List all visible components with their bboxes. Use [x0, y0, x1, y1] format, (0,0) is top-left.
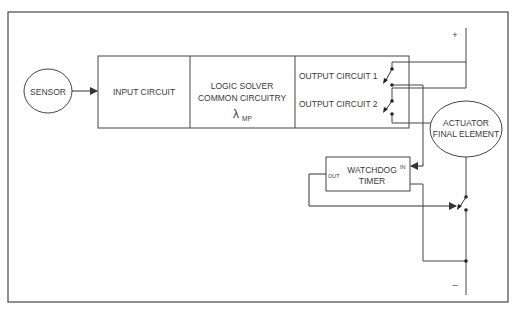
watchdog-in-port: IN [400, 164, 406, 170]
output-circuit-1-label: OUTPUT CIRCUIT 1 [299, 71, 378, 81]
negative-junction-dot [464, 259, 468, 263]
watchdog-timer[interactable]: WATCHDOG TIMER IN OUT [326, 157, 410, 191]
input-circuit-label: INPUT CIRCUIT [113, 87, 175, 97]
watchdog-to-negative-wire [410, 184, 466, 261]
watchdog-out-port: OUT [328, 173, 340, 179]
logic-solver-line1: LOGIC SOLVER [211, 81, 274, 91]
lambda-symbol: λ [233, 107, 239, 121]
actuator-node[interactable]: ACTUATOR FINAL ELEMENT [430, 101, 502, 157]
input-circuit[interactable]: INPUT CIRCUIT [113, 87, 175, 97]
watchdog-line1: WATCHDOG [347, 165, 397, 175]
output-circuit-2-label: OUTPUT CIRCUIT 2 [299, 99, 378, 109]
positive-rail-label: + [452, 30, 457, 40]
logic-solver-line2: COMMON CIRCUITRY [198, 93, 286, 103]
actuator-line2: FINAL ELEMENT [433, 129, 499, 139]
output-circuit-1[interactable]: OUTPUT CIRCUIT 1 [299, 71, 378, 81]
sensor-node[interactable]: SENSOR [24, 69, 72, 113]
schematic-canvas: SENSOR INPUT CIRCUIT LOGIC SOLVER COMMON… [0, 0, 527, 310]
sensor-label: SENSOR [30, 87, 66, 97]
actuator-line1: ACTUATOR [443, 118, 489, 128]
watchdog-switch [457, 195, 468, 212]
lambda-subscript: MP [242, 115, 252, 122]
negative-rail-label: – [452, 280, 457, 290]
output1-to-watchdog-in-edge [411, 163, 423, 166]
watchdog-line2: TIMER [359, 176, 385, 186]
output-circuit-2[interactable]: OUTPUT CIRCUIT 2 [299, 99, 378, 109]
